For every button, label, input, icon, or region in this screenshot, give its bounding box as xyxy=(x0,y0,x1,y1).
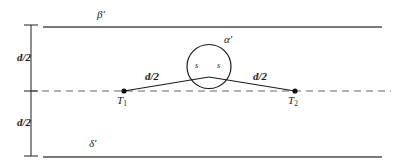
point-t1-subscript: 1 xyxy=(123,99,127,108)
alpha-circle xyxy=(187,45,231,89)
point-t2-label: T2 xyxy=(288,95,298,106)
dimension-label-lower: d/2 xyxy=(17,117,31,128)
left-leg-length-label: d/2 xyxy=(145,71,159,82)
geometry-figure: β′ α′ δ′ d/2 d/2 d/2 d/2 s s T1 T2 xyxy=(0,0,400,163)
dimension-label-upper: d/2 xyxy=(17,52,31,63)
figure-canvas xyxy=(0,0,400,163)
point-t2-marker xyxy=(292,88,297,93)
point-t2-subscript: 2 xyxy=(294,99,298,108)
s-label-left: s xyxy=(195,61,198,70)
s-label-right: s xyxy=(217,61,220,70)
delta-prime-label: δ′ xyxy=(89,138,97,149)
point-t1-label: T1 xyxy=(117,95,127,106)
alpha-prime-label: α′ xyxy=(224,34,232,45)
right-leg-length-label: d/2 xyxy=(253,71,267,82)
beta-prime-label: β′ xyxy=(97,9,105,20)
point-t1-marker xyxy=(121,88,126,93)
